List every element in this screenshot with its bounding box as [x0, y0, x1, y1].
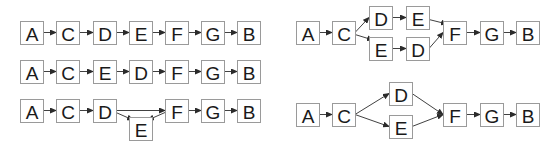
diagram-nodes-right-top: ACDEEDFGB	[297, 7, 540, 61]
node-label: D	[134, 63, 148, 84]
node-b: B	[238, 22, 261, 45]
node-b: B	[517, 104, 540, 127]
node-g: G	[481, 104, 504, 127]
node-e: E	[370, 38, 393, 61]
node-label: G	[206, 24, 221, 45]
node-g: G	[202, 61, 225, 84]
node-label: C	[61, 102, 75, 123]
node-label: E	[412, 9, 425, 30]
arrow-c-to-e	[355, 115, 389, 127]
node-b: B	[517, 22, 540, 45]
node-label: G	[206, 63, 221, 84]
node-e: E	[407, 7, 430, 30]
node-label: C	[337, 24, 351, 45]
node-e: E	[130, 22, 153, 45]
node-c: C	[333, 22, 356, 45]
node-label: B	[522, 24, 535, 45]
node-d: D	[130, 61, 153, 84]
node-c: C	[57, 61, 80, 84]
nodes-layer: ACDEFGBACEDFGBACDEFGBACDEEDFGBACDEFGB	[21, 7, 540, 141]
node-c: C	[333, 104, 356, 127]
node-f: F	[166, 61, 189, 84]
node-label: A	[302, 24, 315, 45]
node-label: F	[171, 102, 183, 123]
node-a: A	[21, 100, 44, 123]
node-label: D	[411, 40, 425, 61]
node-d: D	[94, 22, 117, 45]
node-f: F	[444, 22, 467, 45]
node-label: B	[243, 63, 256, 84]
node-f: F	[166, 100, 189, 123]
node-g: G	[202, 100, 225, 123]
node-label: F	[449, 24, 461, 45]
node-label: C	[61, 63, 75, 84]
node-a: A	[21, 61, 44, 84]
node-label: B	[522, 106, 535, 127]
node-a: A	[21, 22, 44, 45]
node-label: E	[135, 120, 148, 141]
node-c: C	[57, 100, 80, 123]
arrow-d2-to-f	[429, 33, 443, 49]
node-label: F	[171, 24, 183, 45]
arrow-c-to-d	[355, 94, 389, 115]
node-label: G	[485, 24, 500, 45]
node-label: G	[485, 106, 500, 127]
node-label: A	[26, 102, 39, 123]
node-f: F	[166, 22, 189, 45]
node-b: B	[238, 61, 261, 84]
node-label: B	[243, 102, 256, 123]
node-label: E	[395, 118, 408, 139]
node-d: D	[390, 83, 413, 106]
node-b: B	[238, 100, 261, 123]
node-label: A	[302, 106, 315, 127]
node-e: E	[130, 118, 153, 141]
node-a: A	[297, 22, 320, 45]
node-c: C	[57, 22, 80, 45]
node-label: A	[26, 63, 39, 84]
arrow-d-to-f	[412, 94, 443, 115]
arrow-c-to-d1	[355, 18, 369, 33]
node-d: D	[370, 7, 393, 30]
node-d: D	[407, 38, 430, 61]
node-label: D	[374, 9, 388, 30]
diagram-nodes-left-row-3: ACDEFGB	[21, 100, 261, 141]
node-e: E	[94, 61, 117, 84]
node-g: G	[202, 22, 225, 45]
diagram-nodes-left-row-1: ACDEFGB	[21, 22, 261, 45]
node-label: D	[98, 24, 112, 45]
diagram-nodes-right-bottom: ACDEFGB	[297, 83, 540, 139]
node-label: F	[449, 106, 461, 127]
node-label: E	[375, 40, 388, 61]
node-label: C	[61, 24, 75, 45]
node-label: C	[337, 106, 351, 127]
node-f: F	[444, 104, 467, 127]
diagram-nodes-left-row-2: ACEDFGB	[21, 61, 261, 84]
node-label: B	[243, 24, 256, 45]
node-label: F	[171, 63, 183, 84]
arrow-e-to-f	[412, 115, 443, 127]
node-d: D	[94, 100, 117, 123]
node-label: D	[98, 102, 112, 123]
node-label: D	[394, 85, 408, 106]
node-g: G	[481, 22, 504, 45]
node-e: E	[390, 116, 413, 139]
sequence-diagrams: ACDEFGBACEDFGBACDEFGBACDEEDFGBACDEFGB	[0, 0, 555, 149]
node-label: E	[135, 24, 148, 45]
node-label: E	[99, 63, 112, 84]
node-a: A	[297, 104, 320, 127]
node-label: G	[206, 102, 221, 123]
node-label: A	[26, 24, 39, 45]
